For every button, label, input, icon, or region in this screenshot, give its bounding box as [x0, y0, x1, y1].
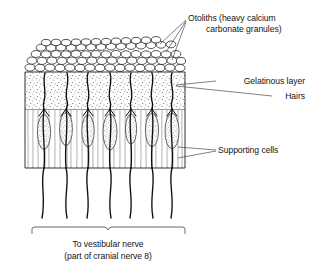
leader-otoliths-2 [166, 21, 186, 52]
otolith-granule-row [25, 64, 185, 72]
otolith-organ-diagram: Otoliths (heavy calcium carbonate granul… [0, 0, 309, 269]
caption-line1: To vestibular nerve [72, 239, 143, 249]
gelatinous-layer [25, 72, 185, 110]
label-otoliths-line2: carbonate granules) [206, 24, 282, 34]
label-otoliths: Otoliths (heavy calcium carbonate granul… [188, 13, 282, 34]
caption-line2: (part of cranial nerve 8) [64, 251, 152, 261]
nerve-brace [32, 227, 185, 234]
otolith-granule-row [31, 51, 181, 58]
diagram-canvas: Otoliths (heavy calcium carbonate granul… [0, 0, 309, 269]
nerve-fiber [66, 168, 68, 218]
nerve-fiber [152, 168, 154, 218]
supporting-cell-layer [25, 110, 185, 168]
nerve-fiber [130, 168, 132, 218]
otolith-granule-layer [25, 37, 186, 72]
label-hairs: Hairs [285, 91, 305, 101]
nerve-fiber [87, 168, 89, 218]
nerve-fiber [171, 168, 173, 218]
label-gelatinous-layer: Gelatinous layer [244, 76, 305, 86]
caption-vestibular-nerve: To vestibular nerve (part of cranial ner… [64, 239, 152, 261]
nerve-fiber [42, 168, 44, 218]
leader-hairs [176, 86, 272, 96]
nerve-fiber-bundle [42, 168, 172, 218]
nerve-fiber [110, 168, 112, 218]
label-supporting-cells: Supporting cells [218, 145, 278, 155]
label-otoliths-line1: Otoliths (heavy calcium [188, 13, 276, 23]
